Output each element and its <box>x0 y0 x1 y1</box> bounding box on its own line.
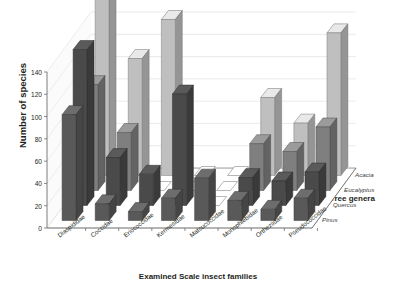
z-tick-label: Pinus <box>322 216 337 223</box>
bar-side-face <box>76 106 83 221</box>
y-tick-label: 0 <box>16 228 42 235</box>
bar-side-face <box>131 124 138 191</box>
bar-side-face <box>330 118 337 191</box>
y-tick-label: 20 <box>16 206 42 213</box>
bar-side-face <box>275 89 282 176</box>
y-tick-label: 80 <box>16 139 42 146</box>
y-tick-label: 120 <box>16 94 42 101</box>
bar-front-face <box>62 115 76 221</box>
bar-side-face <box>341 24 348 176</box>
bar-side-face <box>142 50 149 176</box>
y-tick-label: 60 <box>16 161 42 168</box>
bar-side-face <box>87 41 94 206</box>
y-tick-label: 100 <box>16 117 42 124</box>
bar-front-face <box>195 178 209 220</box>
bar-pinus-diaspididae <box>62 106 83 221</box>
bar-quercus-eriococcidae <box>139 165 160 205</box>
z-tick-label: Eucalyptus <box>344 186 374 193</box>
chart-root: Pinus Quercus Eucalyptus Acacia Number o… <box>0 0 396 292</box>
y-tick-label: 140 <box>16 72 42 79</box>
y-tick-label: 40 <box>16 183 42 190</box>
bar-front-face <box>172 94 186 205</box>
bar-quercus-kermesidae <box>172 85 193 205</box>
chart-canvas <box>0 0 396 292</box>
bar-side-face <box>98 76 105 191</box>
bar-side-face <box>264 135 271 191</box>
z-tick-label: Acacia <box>355 171 374 178</box>
bar-side-face <box>120 149 127 206</box>
bar-side-face <box>186 85 193 205</box>
z-tick-label: Quercus <box>333 201 356 208</box>
bar-front-face <box>139 174 153 205</box>
plot-area: 020406080100120140 DiaspididaeCoccidaeEr… <box>0 0 396 292</box>
